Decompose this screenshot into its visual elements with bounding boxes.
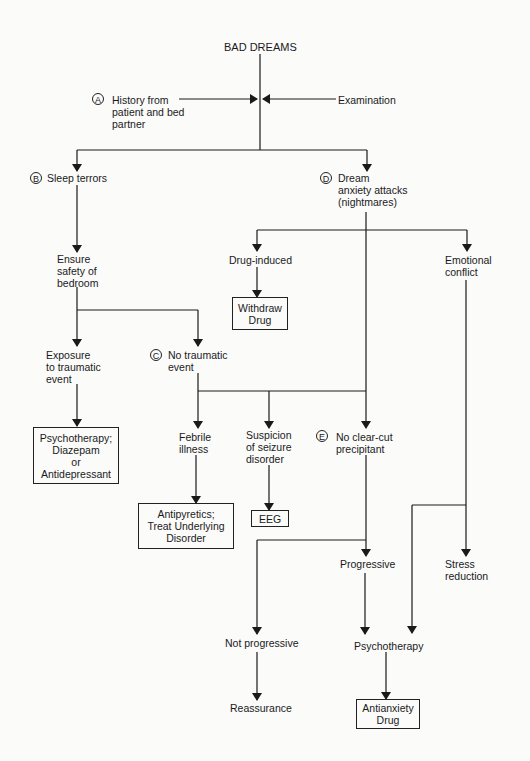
node-examination: Examination [338, 94, 396, 106]
step-e-marker: E [316, 430, 328, 442]
node-stress-reduction: Stress reduction [445, 558, 488, 582]
box-eeg: EEG [251, 510, 289, 527]
step-a-marker: A [92, 93, 104, 105]
node-psychotherapy: Psychotherapy [354, 640, 423, 652]
node-progressive: Progressive [340, 558, 395, 570]
step-d-marker: D [320, 172, 332, 184]
box-antipyretics: Antipyretics; Treat Underlying Disorder [138, 503, 234, 549]
node-not-progressive: Not progressive [225, 637, 299, 649]
node-seizure: Suspicion of seizure disorder [246, 429, 292, 465]
box-withdraw-drug: Withdraw Drug [232, 297, 288, 330]
node-febrile: Febrile illness [179, 431, 211, 455]
box-antianxiety-drug: Antianxiety Drug [356, 699, 420, 729]
step-c-marker: C [150, 349, 162, 361]
node-exposure: Exposure to traumatic event [46, 349, 101, 385]
node-history: History from patient and bed partner [112, 94, 184, 130]
step-b-marker: B [30, 172, 42, 184]
node-dream-anxiety: Dream anxiety attacks (nightmares) [338, 172, 407, 208]
node-emotional-conflict: Emotional conflict [445, 254, 492, 278]
node-ensure-safety: Ensure safety of bedroom [57, 253, 98, 289]
node-no-traumatic: No traumatic event [168, 349, 228, 373]
box-psychotherapy-diazepam: Psychotherapy; Diazepam or Antidepressan… [33, 427, 119, 484]
node-drug-induced: Drug-induced [229, 254, 292, 266]
title-bad-dreams: BAD DREAMS [224, 41, 297, 53]
node-reassurance: Reassurance [230, 702, 292, 714]
node-sleep-terrors: Sleep terrors [47, 172, 107, 184]
node-no-clear-cut: No clear-cut precipitant [336, 431, 393, 455]
